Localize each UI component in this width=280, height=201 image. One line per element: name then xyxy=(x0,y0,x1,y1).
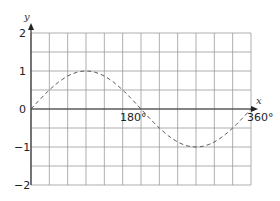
y-axis-label: y xyxy=(23,11,30,22)
x-axis-label: x xyxy=(256,95,262,106)
y-tick-neg2: −2 xyxy=(14,179,30,192)
y-axis-arrow-icon xyxy=(28,23,34,30)
y-tick-neg1: −1 xyxy=(14,141,30,154)
y-tick-2: 2 xyxy=(19,27,26,40)
y-tick-0: 0 xyxy=(19,103,26,116)
sine-chart: y x 2 1 0 −1 −2 180° 360° xyxy=(0,0,280,201)
x-tick-360: 360° xyxy=(247,111,274,124)
x-tick-180: 180° xyxy=(120,111,147,124)
y-tick-1: 1 xyxy=(19,65,26,78)
